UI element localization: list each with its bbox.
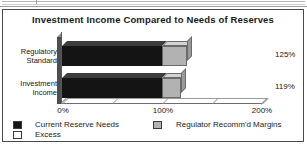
category-label-line-2: Income <box>20 88 57 97</box>
strip-rule-bottom <box>2 4 305 5</box>
bar-segment-dark-top <box>62 41 162 46</box>
bar-segment-gray-side <box>181 73 186 93</box>
bar-segment-dark-top <box>62 73 162 78</box>
strip-divider <box>36 0 37 4</box>
x-axis-label-100: 100% <box>153 106 173 115</box>
bar-segment-current-reserve-needs[interactable] <box>62 46 162 66</box>
bar-segment-regulator-margins[interactable] <box>162 46 187 66</box>
bar-segment-regulator-margins[interactable] <box>162 78 181 98</box>
bar-segment-gray-side <box>187 41 192 61</box>
x-axis-label-200: 200% <box>252 106 272 115</box>
x-axis-label-0: 0% <box>57 106 69 115</box>
legend-label-regulator-recommd-margins: Regulator Recomm'd Margins <box>176 120 282 129</box>
category-label-line-2: Standard <box>21 56 57 65</box>
bar-segment-gray-top <box>162 73 181 78</box>
category-label-investment-income: Investment Income <box>20 79 57 97</box>
gray-swatch-icon <box>153 121 162 129</box>
category-label-regulatory-standard: Regulatory Standard <box>21 47 57 65</box>
white-swatch-icon <box>13 131 22 139</box>
strip-rule-top <box>2 1 305 2</box>
chart-legend: Current Reserve Needs Excess Regulator R… <box>13 120 298 142</box>
bar-segment-gray-top <box>162 41 187 46</box>
bar-segment-current-reserve-needs[interactable] <box>62 78 162 98</box>
black-swatch-icon <box>13 121 22 129</box>
data-label-regulatory-standard: 125% <box>275 50 295 59</box>
legend-label-current-reserve-needs: Current Reserve Needs <box>35 120 119 129</box>
category-label-line-1: Regulatory <box>21 47 57 56</box>
data-label-investment-income: 119% <box>275 82 295 91</box>
legend-label-excess: Excess <box>35 130 61 139</box>
clipped-top-strip <box>0 0 307 7</box>
chart-container: Investment Income Compared to Needs of R… <box>2 9 304 142</box>
category-label-line-1: Investment <box>20 79 57 88</box>
